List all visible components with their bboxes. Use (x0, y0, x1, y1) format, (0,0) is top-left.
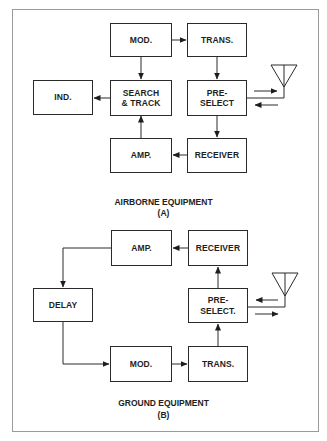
airborne-preselect-block: PRE- SELECT (187, 80, 247, 116)
ground-trans-block: TRANS. (188, 346, 248, 382)
airborne-mod-block: MOD. (110, 23, 172, 57)
ground-label: (B) (0, 410, 327, 420)
airborne-amp-block: AMP. (110, 138, 172, 173)
airborne-receiver-block: RECEIVER (187, 138, 247, 173)
airborne-ind-block: IND. (33, 80, 93, 115)
ground-title: GROUND EQUIPMENT (0, 398, 327, 408)
ground-receiver-block: RECEIVER (188, 230, 248, 266)
airborne-search-track-block: SEARCH & TRACK (110, 80, 172, 116)
ground-amp-block: AMP. (111, 230, 172, 266)
airborne-trans-block: TRANS. (187, 23, 247, 57)
ground-preselect-block: PRE- SELECT. (188, 288, 248, 323)
airborne-title: AIRBORNE EQUIPMENT (0, 197, 327, 207)
ground-mod-block: MOD. (110, 346, 172, 382)
airborne-label: (A) (0, 208, 327, 218)
ground-delay-block: DELAY (33, 288, 93, 322)
